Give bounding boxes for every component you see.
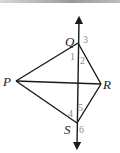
label-q: Q: [65, 34, 75, 49]
label-r: R: [102, 77, 111, 92]
label-s: S: [64, 122, 71, 137]
angle-label-3: 3: [83, 34, 88, 45]
angle-label-5: 5: [78, 102, 83, 113]
label-p: P: [2, 74, 11, 89]
geometry-diagram: Q P R S 1 2 3 4 5 6: [0, 0, 120, 153]
angle-label-4: 4: [68, 108, 73, 119]
angle-label-1: 1: [70, 51, 75, 62]
angle-label-2: 2: [80, 55, 85, 66]
segment-pr: [16, 81, 101, 84]
angle-label-6: 6: [79, 124, 84, 135]
